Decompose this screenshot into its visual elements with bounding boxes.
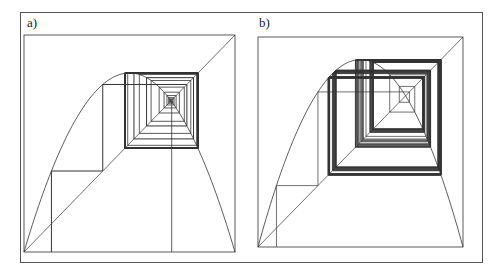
- panel-b-cobweb-diagram: [258, 37, 463, 247]
- map-curve: [24, 73, 235, 252]
- cobweb-orbit: [276, 60, 441, 247]
- identity-diagonal: [24, 35, 235, 252]
- cobweb-plots: [0, 0, 495, 272]
- panel-a-cobweb-diagram: [24, 35, 235, 252]
